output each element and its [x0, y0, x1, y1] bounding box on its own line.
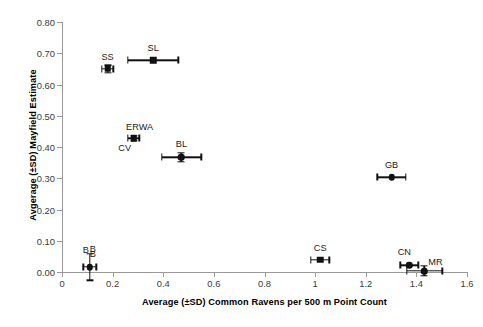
x-error-cap	[161, 154, 162, 161]
x-error-cap	[376, 174, 377, 181]
x-error-cap	[406, 268, 407, 275]
y-tick-label: 0.00	[37, 267, 55, 278]
y-tick-label: 0.40	[37, 142, 55, 153]
y-tick-label: 0.80	[37, 17, 55, 28]
data-point-label: BL	[176, 139, 187, 149]
data-point-marker[interactable]	[130, 135, 137, 142]
x-tick-mark	[163, 272, 164, 277]
data-point-label: B	[83, 245, 89, 255]
x-error-cap	[405, 174, 406, 181]
x-tick-label: 1	[313, 278, 318, 289]
data-point-marker[interactable]	[421, 268, 428, 275]
y-error-cap	[104, 72, 111, 73]
data-point-label: SL	[148, 43, 159, 53]
y-tick-mark	[57, 85, 62, 86]
x-error-cap	[139, 135, 140, 142]
y-tick-mark	[57, 178, 62, 179]
x-tick-label: 1.6	[460, 278, 473, 289]
data-point-label: ERWA	[126, 122, 153, 132]
data-point-marker[interactable]	[178, 154, 185, 161]
x-axis-title: Average (±SD) Common Ravens per 500 m Po…	[62, 297, 467, 307]
data-point-marker[interactable]	[150, 57, 157, 64]
y-tick-mark	[57, 241, 62, 242]
x-error-cap	[201, 154, 202, 161]
y-tick-label: 0.70	[37, 48, 55, 59]
x-error-cap	[441, 268, 442, 275]
data-point-label: GB	[385, 160, 398, 170]
x-error-cap	[83, 264, 84, 271]
x-error-cap	[112, 65, 113, 72]
y-tick-label: 0.30	[37, 173, 55, 184]
y-axis-line	[62, 22, 63, 272]
y-error-cap	[178, 161, 185, 162]
scatter-plot-figure: Avgerage (±SD) Mayfield Estimate Average…	[0, 0, 483, 327]
data-point-marker[interactable]	[87, 264, 94, 271]
y-tick-mark	[57, 210, 62, 211]
data-point-label: CN	[398, 247, 411, 257]
x-tick-mark	[265, 272, 266, 277]
x-tick-label: 1.4	[410, 278, 423, 289]
x-error-cap	[310, 256, 311, 263]
y-tick-mark	[57, 22, 62, 23]
x-tick-label: 0	[59, 278, 64, 289]
x-tick-label: 0.4	[157, 278, 170, 289]
x-tick-label: 1.2	[359, 278, 372, 289]
data-point-marker[interactable]	[317, 256, 324, 263]
x-error-cap	[127, 57, 128, 64]
data-point-label: CV	[118, 143, 131, 153]
y-error-cap	[421, 275, 428, 276]
x-error-cap	[101, 65, 102, 72]
data-point-label: MR	[428, 257, 442, 267]
plot-area: 0.000.100.200.300.400.500.600.700.80 00.…	[62, 22, 467, 272]
y-tick-label: 0.20	[37, 204, 55, 215]
data-point-label: CS	[314, 243, 327, 253]
x-tick-mark	[214, 272, 215, 277]
x-tick-mark	[113, 272, 114, 277]
x-tick-mark	[315, 272, 316, 277]
x-tick-mark	[467, 272, 468, 277]
y-error-cap	[421, 265, 428, 266]
x-error-cap	[178, 57, 179, 64]
x-error-cap	[418, 262, 419, 269]
data-point-label: B	[90, 249, 96, 259]
x-error-cap	[96, 264, 97, 271]
x-tick-label: 0.8	[258, 278, 271, 289]
y-error-cap	[86, 279, 93, 280]
x-tick-mark	[62, 272, 63, 277]
y-tick-label: 0.10	[37, 235, 55, 246]
data-point-label: SS	[101, 52, 113, 62]
y-tick-mark	[57, 147, 62, 148]
data-point-marker[interactable]	[388, 174, 395, 181]
y-tick-mark	[57, 53, 62, 54]
x-tick-label: 0.6	[207, 278, 220, 289]
x-tick-mark	[416, 272, 417, 277]
x-tick-mark	[366, 272, 367, 277]
y-tick-label: 0.60	[37, 79, 55, 90]
x-error-cap	[127, 135, 128, 142]
x-tick-label: 0.2	[106, 278, 119, 289]
data-point-marker[interactable]	[104, 66, 111, 73]
x-error-cap	[399, 262, 400, 269]
y-tick-mark	[57, 116, 62, 117]
x-error-cap	[329, 256, 330, 263]
y-tick-label: 0.50	[37, 110, 55, 121]
